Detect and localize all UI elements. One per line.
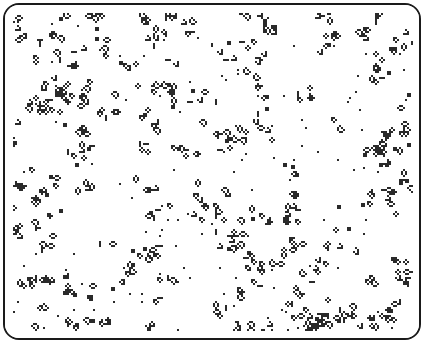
cell-grid[interactable]: [5, 5, 419, 338]
life-board[interactable]: [3, 3, 421, 340]
